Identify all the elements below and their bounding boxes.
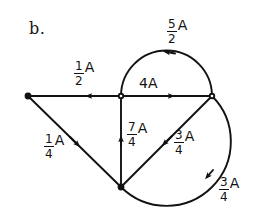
unit-amperes: A: [230, 176, 240, 190]
edge-upper-semicircle-arrowhead-carrier: [166, 52, 175, 54]
unit-amperes: A: [138, 121, 148, 135]
fraction-1-2: 1 2: [74, 60, 84, 87]
unit-amperes: A: [178, 18, 188, 32]
vertex-right-node-hole: [211, 95, 214, 98]
edge-label-left-diagonal: 1 4 A: [44, 133, 64, 160]
vertex-left-node: [25, 93, 32, 100]
unit-amperes: A: [185, 129, 195, 143]
edge-label-left-horizontal: 1 2 A: [74, 60, 94, 87]
edge-upper-semicircle-arc: [121, 51, 212, 96]
edge-label-vertical: 7 4 A: [127, 121, 147, 148]
vertex-center-node-hole: [120, 95, 123, 98]
unit-amperes: A: [148, 76, 158, 90]
flow-network-graph: [0, 0, 255, 220]
edge-label-upper-semicircle: 5 2 A: [167, 18, 187, 45]
fraction-5-2: 5 2: [167, 18, 177, 45]
value-4: 4: [139, 76, 148, 90]
edge-label-inner-diagonal: 3 4 A: [174, 129, 194, 156]
unit-amperes: A: [55, 133, 65, 147]
fraction-3-4: 3 4: [219, 176, 229, 203]
edge-label-center-horizontal: 4 A: [139, 76, 158, 90]
fraction-1-4: 1 4: [44, 133, 54, 160]
figure-container: b.: [0, 0, 255, 220]
vertex-bottom-node: [118, 184, 125, 191]
edge-right-bottom-arrowhead-carrier: [164, 136, 172, 144]
unit-amperes: A: [85, 60, 95, 74]
edge-lower-arc-arrowhead-carrier: [207, 170, 213, 177]
fraction-7-4: 7 4: [127, 121, 137, 148]
edge-label-lower-arc: 3 4 A: [219, 176, 239, 203]
edge-left-bottom-arrowhead-carrier: [70, 137, 78, 145]
fraction-3-4: 3 4: [174, 129, 184, 156]
